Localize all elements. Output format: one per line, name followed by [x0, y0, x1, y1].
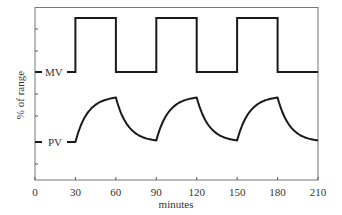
x-tick-label: 180 [269, 186, 286, 198]
pv-label: PV [48, 136, 62, 148]
x-tick-label: 30 [70, 186, 82, 198]
mv-series-line [75, 18, 318, 72]
x-tick-label: 90 [151, 186, 163, 198]
x-tick-label: 210 [310, 186, 327, 198]
y-axis-title: % of range [14, 71, 26, 119]
chart: 0306090120150180210 MV PV minutes % of r… [0, 0, 342, 215]
x-tick-label: 150 [229, 186, 246, 198]
pv-series-line [75, 98, 318, 142]
mv-label: MV [45, 66, 63, 78]
plot-frame [35, 8, 318, 181]
x-axis-title: minutes [159, 198, 194, 210]
x-tick-label: 120 [188, 186, 205, 198]
x-axis-tick-labels: 0306090120150180210 [32, 186, 327, 198]
x-tick-label: 0 [32, 186, 38, 198]
x-tick-label: 60 [110, 186, 122, 198]
